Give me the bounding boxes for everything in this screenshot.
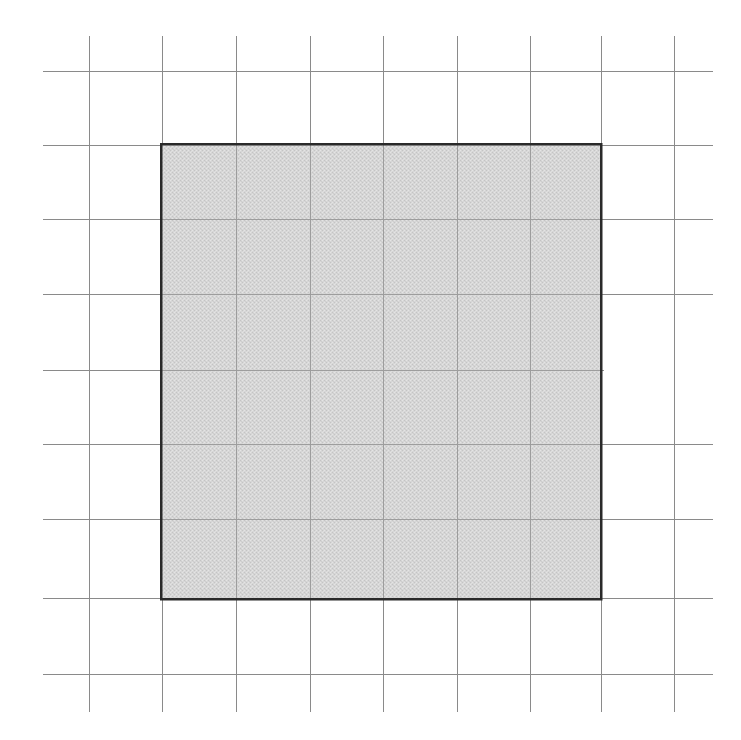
shaded-square-fill [161, 144, 601, 599]
figure-canvas [0, 0, 741, 740]
grid-figure-svg [0, 0, 741, 740]
